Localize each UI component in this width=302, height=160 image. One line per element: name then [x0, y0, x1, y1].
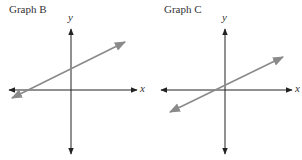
x-axis-label: x — [295, 82, 300, 94]
plotted-line — [170, 57, 283, 112]
y-axis-label: y — [222, 11, 227, 23]
graph-title: Graph C — [164, 3, 202, 15]
graph-b-plot — [0, 0, 151, 160]
y-axis-label: y — [68, 11, 73, 23]
graph-c: Graph C y x — [151, 0, 302, 160]
x-axis-label: x — [140, 82, 145, 94]
graph-title: Graph B — [9, 3, 47, 15]
graph-c-plot — [151, 0, 302, 160]
graph-b: Graph B y x — [0, 0, 151, 160]
